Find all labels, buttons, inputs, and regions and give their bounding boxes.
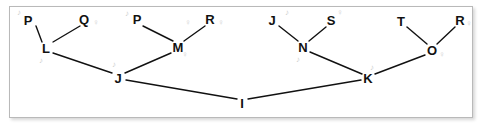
graph-edge xyxy=(126,80,237,99)
diagram-canvas: ♪♪♀♪♀♀♀♪♪♀♪♀♀♪ PQPRJSTRLMNOJKI xyxy=(0,0,485,132)
graph-node-s[interactable]: S xyxy=(327,14,336,27)
graph-edge xyxy=(125,53,171,73)
graph-edge xyxy=(53,26,80,42)
graph-edge xyxy=(143,26,173,41)
graph-node-p[interactable]: P xyxy=(24,14,33,27)
graph-edge xyxy=(309,27,326,41)
graph-edge xyxy=(375,55,425,74)
graph-node-o[interactable]: O xyxy=(427,44,437,57)
graph-edge xyxy=(407,27,427,44)
graph-node-q[interactable]: Q xyxy=(79,13,89,26)
graph-node-n[interactable]: N xyxy=(298,41,307,54)
graph-edge xyxy=(437,27,455,44)
graph-edge xyxy=(248,80,361,99)
graph-node-t[interactable]: T xyxy=(397,15,405,28)
graph-edge xyxy=(184,26,205,41)
graph-edges-layer xyxy=(0,0,485,132)
graph-edge xyxy=(53,53,112,73)
edge-group xyxy=(36,26,455,99)
graph-node-l[interactable]: L xyxy=(42,42,50,55)
graph-node-j[interactable]: J xyxy=(114,72,121,85)
graph-node-i[interactable]: I xyxy=(240,97,244,110)
graph-edge xyxy=(310,52,362,74)
graph-node-k[interactable]: K xyxy=(363,72,372,85)
graph-node-m[interactable]: M xyxy=(173,41,184,54)
graph-edge xyxy=(279,26,298,41)
graph-node-p[interactable]: P xyxy=(133,13,142,26)
graph-node-r[interactable]: R xyxy=(455,14,464,27)
graph-node-j[interactable]: J xyxy=(268,14,275,27)
graph-node-r[interactable]: R xyxy=(205,13,214,26)
